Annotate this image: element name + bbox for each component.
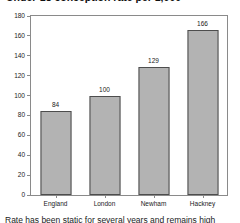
bar [138, 67, 169, 195]
chart-caption-clipped: Rate has been static for several years a… [0, 215, 240, 223]
x-tick-line [154, 195, 155, 198]
bar-group: 100 [80, 16, 129, 195]
y-tick-line [27, 55, 30, 56]
y-tick-label: 100 [14, 91, 25, 100]
x-axis-label: London [80, 199, 129, 209]
y-tick-line [27, 95, 30, 96]
chart-caption-text: Rate has been static for several years a… [5, 215, 215, 223]
chart-figure: Under-18 conception rate per 1,000 02040… [0, 0, 240, 223]
bar-group: 166 [178, 16, 227, 195]
x-tick-line [56, 195, 57, 198]
y-tick-line [27, 155, 30, 156]
y-tick-label: 40 [18, 150, 25, 159]
y-tick-label: 160 [14, 31, 25, 40]
x-tick-line [203, 195, 204, 198]
bar-value-label: 166 [197, 20, 208, 28]
bar [187, 30, 218, 195]
x-axis-label: England [31, 199, 80, 209]
x-axis-label: Hackney [178, 199, 227, 209]
y-tick-line [27, 16, 30, 17]
y-tick-line [27, 135, 30, 136]
x-axis: EnglandLondonNewhamHackney [31, 199, 227, 211]
y-tick-line [27, 195, 30, 196]
y-tick-label: 80 [18, 110, 25, 119]
y-tick-label: 180 [14, 11, 25, 20]
y-tick-line [27, 175, 30, 176]
bar [89, 96, 120, 195]
y-tick-label: 140 [14, 51, 25, 60]
bar-group: 129 [129, 16, 178, 195]
y-tick-line [27, 35, 30, 36]
bar-group: 84 [31, 16, 80, 195]
y-tick-line [27, 75, 30, 76]
chart-title-clipped: Under-18 conception rate per 1,000 [0, 0, 240, 9]
y-tick-label: 0 [21, 190, 25, 199]
x-tick-line [105, 195, 106, 198]
y-tick-label: 60 [18, 130, 25, 139]
bars-layer: 84100129166 [31, 16, 227, 195]
y-tick-line [27, 115, 30, 116]
chart-title-text: Under-18 conception rate per 1,000 [6, 0, 181, 3]
y-tick-label: 120 [14, 71, 25, 80]
bar [40, 111, 71, 195]
bar-value-label: 129 [148, 57, 159, 65]
bar-value-label: 100 [99, 86, 110, 94]
x-axis-label: Newham [129, 199, 178, 209]
bar-value-label: 84 [52, 101, 59, 109]
y-tick-label: 20 [18, 170, 25, 179]
